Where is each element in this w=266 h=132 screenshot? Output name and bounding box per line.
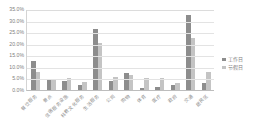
y-axis-tick-label: 25.0% — [0, 31, 26, 36]
x-axis-label: 政府 — [168, 93, 179, 104]
y-axis-tick-label: 0.0% — [0, 88, 26, 93]
x-axis-label-cell: 交通 — [183, 92, 199, 132]
x-axis-label: 购物 — [121, 93, 132, 104]
bar-holiday[interactable] — [36, 72, 41, 90]
bar-holiday[interactable] — [98, 43, 103, 90]
bar-holiday[interactable] — [129, 75, 134, 90]
gridline — [27, 45, 214, 46]
legend-item[interactable]: 节假日 — [222, 65, 266, 70]
bar-holiday[interactable] — [175, 83, 180, 90]
y-axis-tick-label: 20.0% — [0, 42, 26, 47]
x-axis-label: 医疗 — [152, 93, 163, 104]
x-axis-label: 交通 — [183, 93, 194, 104]
x-axis-label-cell: 居民区 — [198, 92, 214, 132]
x-axis-label: 体育 — [136, 93, 147, 104]
gridline — [27, 56, 214, 57]
gridline — [27, 22, 214, 23]
y-axis-tick-label: 10.0% — [0, 65, 26, 70]
x-axis-label-cell: 购物 — [120, 92, 136, 132]
chart-title-strip — [0, 0, 266, 7]
y-axis-tick-label: 5.0% — [0, 77, 26, 82]
x-axis-label-cell: 餐饮服务 — [27, 92, 43, 132]
x-axis-label-cell: 体育 — [136, 92, 152, 132]
gridline — [27, 68, 214, 69]
x-axis-label-cell: 生活服务 — [89, 92, 105, 132]
x-axis-label-cell: 政府 — [167, 92, 183, 132]
plot-area — [26, 10, 214, 91]
x-axis-label-cell: 医疗 — [152, 92, 168, 132]
gridline — [27, 33, 214, 34]
y-axis-tick-label: 30.0% — [0, 19, 26, 24]
x-axis-label-cell: 公司 — [105, 92, 121, 132]
legend-swatch-icon — [222, 66, 226, 70]
legend-swatch-icon — [222, 58, 226, 62]
y-axis-tick-label: 15.0% — [0, 54, 26, 59]
bar-holiday[interactable] — [82, 82, 87, 90]
legend-item[interactable]: 工作日 — [222, 57, 266, 62]
x-axis-label: 公司 — [105, 93, 116, 104]
chart-container: 35.0%30.0%25.0%20.0%15.0%10.0%5.0%0.0% 餐… — [0, 0, 266, 132]
x-axis-label: 景点 — [43, 93, 54, 104]
x-axis-labels: 餐饮服务景点住宿服务设施科教文化服务生活服务公司购物体育医疗政府交通居民区 — [27, 92, 214, 132]
legend-label: 工作日 — [228, 57, 243, 62]
bar-holiday[interactable] — [206, 72, 211, 91]
bar-holiday[interactable] — [51, 79, 56, 90]
y-axis: 35.0%30.0%25.0%20.0%15.0%10.0%5.0%0.0% — [0, 10, 26, 91]
y-axis-tick-label: 35.0% — [0, 7, 26, 12]
chart-legend: 工作日节假日 — [222, 57, 266, 73]
legend-label: 节假日 — [228, 65, 243, 70]
gridline — [27, 79, 214, 80]
x-axis-label-cell: 科教文化服务 — [74, 92, 90, 132]
x-axis-label: 餐饮服务 — [20, 93, 39, 112]
